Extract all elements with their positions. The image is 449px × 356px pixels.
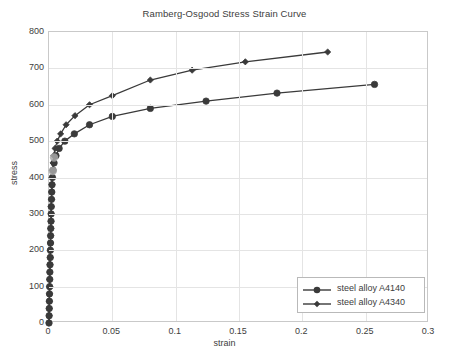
- highlighted-data-point[interactable]: [49, 167, 57, 175]
- data-point-marker: [274, 90, 280, 96]
- y-axis-tick-label: 700: [4, 62, 44, 72]
- x-axis-tick-label: 0.05: [81, 326, 141, 336]
- data-point-marker: [147, 77, 153, 83]
- data-point-marker: [58, 131, 64, 137]
- legend-item[interactable]: steel alloy A4140: [302, 281, 420, 295]
- data-point-marker: [71, 131, 77, 137]
- x-axis-tick-label: 0.3: [398, 326, 449, 336]
- legend-item-label: steel alloy A4340: [332, 297, 405, 307]
- chart-legend: steel alloy A4140steel alloy A4340: [297, 277, 425, 313]
- chart-figure: Ramberg-Osgood Stress Strain Curve 01002…: [0, 0, 449, 356]
- legend-item-label: steel alloy A4140: [332, 283, 405, 293]
- y-axis-tick-label: 200: [4, 244, 44, 254]
- x-axis-tick-label: 0.25: [335, 326, 395, 336]
- legend-circle-marker-icon: [302, 282, 332, 294]
- gridline-horizontal: [49, 214, 427, 215]
- x-axis-tick-label: 0.1: [145, 326, 205, 336]
- gridline-horizontal: [49, 68, 427, 69]
- x-axis-tick-label: 0: [18, 326, 78, 336]
- data-point-marker: [203, 98, 209, 104]
- legend-item[interactable]: steel alloy A4340: [302, 295, 420, 309]
- highlighted-data-point[interactable]: [50, 153, 58, 161]
- y-axis-tick-label: 600: [4, 99, 44, 109]
- chart-title: Ramberg-Osgood Stress Strain Curve: [0, 8, 449, 19]
- y-axis-tick-label: 800: [4, 26, 44, 36]
- gridline-horizontal: [49, 141, 427, 142]
- y-axis-ticks: 0100200300400500600700800: [0, 31, 44, 322]
- y-axis-label: stress: [9, 143, 19, 203]
- y-axis-tick-label: 300: [4, 208, 44, 218]
- gridline-horizontal: [49, 178, 427, 179]
- data-point-marker: [325, 49, 331, 55]
- data-point-marker: [86, 122, 92, 128]
- gridline-horizontal: [49, 250, 427, 251]
- data-point-marker: [371, 81, 377, 87]
- data-point-marker: [147, 105, 153, 111]
- gridline-horizontal: [49, 105, 427, 106]
- x-axis-tick-label: 0.2: [271, 326, 331, 336]
- x-axis-label: strain: [0, 338, 449, 348]
- x-axis-tick-label: 0.15: [208, 326, 268, 336]
- gridline-vertical: [239, 32, 240, 321]
- y-axis-tick-label: 100: [4, 281, 44, 291]
- gridline-vertical: [176, 32, 177, 321]
- legend-diamond-marker-icon: [302, 296, 332, 308]
- gridline-vertical: [112, 32, 113, 321]
- data-point-marker: [242, 59, 248, 65]
